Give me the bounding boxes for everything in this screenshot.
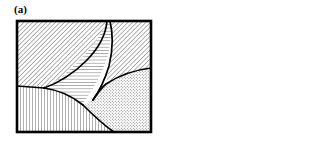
panel-a: (a) (0, 0, 167, 144)
panel-a-label: (a) (14, 3, 27, 15)
panel-a-diagram (14, 18, 154, 135)
panel-b: (b) (167, 0, 334, 144)
figure-root: (a) (0, 0, 334, 144)
